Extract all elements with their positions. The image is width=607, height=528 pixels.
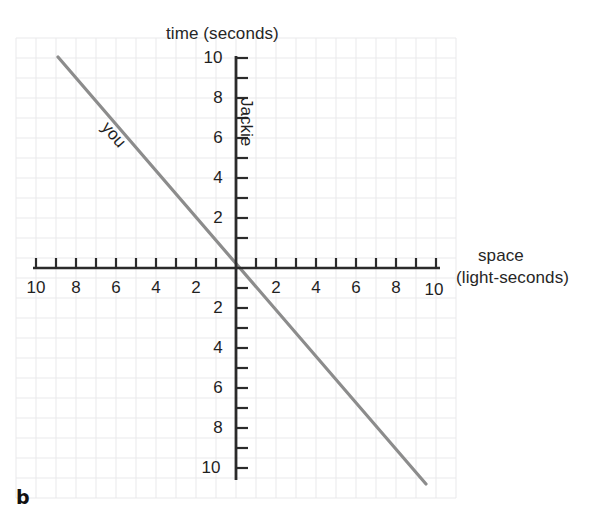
y-tick-label-pos-2: 2 xyxy=(205,208,231,228)
spacetime-diagram-figure: time (seconds) space (light-seconds) 10 … xyxy=(0,0,607,528)
space-axis-unit-label: (light-seconds) xyxy=(456,268,569,288)
x-tick-label-neg-2: 2 xyxy=(183,278,209,298)
panel-letter: b xyxy=(16,486,30,508)
y-tick-label-pos-10: 10 xyxy=(200,48,226,68)
x-tick-label-neg-6: 6 xyxy=(103,278,129,298)
time-axis-title: time (seconds) xyxy=(166,24,279,44)
worldline-label-jackie: Jackie xyxy=(236,98,256,146)
y-tick-label-neg-10: 10 xyxy=(198,458,224,478)
x-tick-label-pos-10: 10 xyxy=(421,280,447,300)
y-tick-label-pos-8: 8 xyxy=(205,88,231,108)
space-axis-title: space xyxy=(478,246,524,266)
x-tick-label-pos-8: 8 xyxy=(383,278,409,298)
x-tick-label-pos-6: 6 xyxy=(343,278,369,298)
y-tick-label-neg-8: 8 xyxy=(205,418,231,438)
x-tick-label-pos-4: 4 xyxy=(303,278,329,298)
x-tick-label-neg-10: 10 xyxy=(23,278,49,298)
y-tick-label-neg-2: 2 xyxy=(205,298,231,318)
y-tick-label-pos-6: 6 xyxy=(205,128,231,148)
y-tick-label-neg-4: 4 xyxy=(205,338,231,358)
x-tick-label-pos-2: 2 xyxy=(263,278,289,298)
y-tick-label-pos-4: 4 xyxy=(205,168,231,188)
x-tick-label-neg-8: 8 xyxy=(63,278,89,298)
x-tick-label-neg-4: 4 xyxy=(143,278,169,298)
y-tick-label-neg-6: 6 xyxy=(205,378,231,398)
